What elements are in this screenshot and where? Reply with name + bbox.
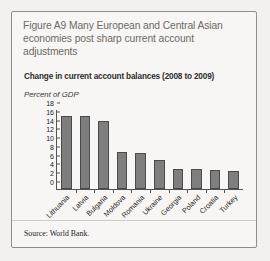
plot-axis-area: 024681012141618 [56,110,243,190]
source-note: Source: World Bank. [24,229,89,238]
y-tick-label: 2 [50,170,57,177]
bar-lithuania [61,116,72,189]
bar-bulgaria [98,121,109,189]
bar-slot [169,110,188,189]
bar-latvia [80,116,91,189]
figure-title: Figure A9 Many European and Central Asia… [23,19,247,59]
bar-slot [131,110,150,189]
bar-georgia [173,169,184,189]
bar-slot [150,110,169,189]
y-tick-label: 12 [46,126,57,133]
x-tick-label-poland: Poland [180,193,202,215]
bar-ukraine [154,160,165,189]
x-tick-label-turkey: Turkey [217,193,239,215]
bar-poland [191,169,202,189]
bar-slot [76,110,95,189]
y-tick-label: 16 [46,108,57,115]
bar-slot [113,110,132,189]
source-divider [12,220,256,221]
x-tick-label-lithuania: Lithuania [45,193,72,220]
bar-slot [224,110,243,189]
y-tick-label: 18 [46,100,57,107]
bar-slot [187,110,206,189]
bar-turkey [228,171,239,189]
bar-croatia [210,170,221,189]
bar-series [57,110,243,189]
y-tick-label: 8 [50,143,57,150]
figure-panel: Figure A9 Many European and Central Asia… [11,11,257,248]
bar-romania [135,153,146,189]
bar-slot [57,110,76,189]
y-tick-label: 4 [50,161,57,168]
y-tick-label: 10 [46,135,57,142]
y-tick-label: 0 [50,179,57,186]
bar-slot [94,110,113,189]
x-tick-label-croatia: Croatia [198,193,221,216]
y-tick-label: 14 [46,117,57,124]
y-tick-label: 6 [50,152,57,159]
bar-moldova [117,152,128,189]
bar-slot [206,110,225,189]
y-axis-label: Percent of GDP [24,90,79,99]
chart-subtitle: Change in current account balances (2008… [24,72,250,81]
bar-chart: 024681012141618 LithuaniaLatviaBulgariaM… [32,107,246,193]
